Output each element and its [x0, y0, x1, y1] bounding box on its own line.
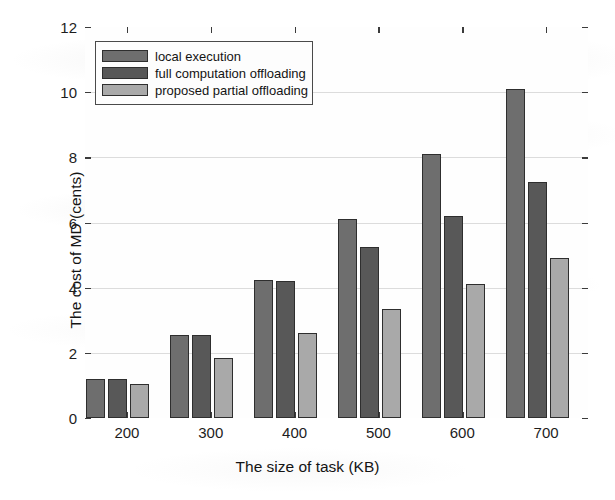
bar	[276, 281, 295, 418]
x-tick-mark-top	[211, 27, 212, 33]
legend-item: full computation offloading	[102, 65, 305, 81]
x-tick-mark-top	[546, 27, 547, 33]
bar	[170, 335, 189, 418]
x-tick-mark-top	[295, 27, 296, 33]
legend-swatch	[102, 84, 148, 96]
bar-chart-figure: The cost of MD (cents) The size of task …	[0, 0, 615, 500]
y-tick-label: 12	[37, 19, 77, 36]
y-tick-mark	[85, 92, 91, 93]
bar	[360, 247, 379, 418]
bar	[444, 216, 463, 418]
x-tick-label: 200	[92, 424, 162, 441]
bar	[254, 280, 273, 418]
bar	[528, 182, 547, 418]
y-tick-mark	[85, 27, 91, 28]
y-tick-mark-right	[582, 353, 588, 354]
x-tick-mark-top	[378, 27, 379, 33]
x-tick-mark-top	[127, 27, 128, 33]
y-tick-label: 10	[37, 84, 77, 101]
legend-item: proposed partial offloading	[102, 82, 305, 98]
y-tick-label: 6	[37, 214, 77, 231]
y-tick-mark-right	[582, 92, 588, 93]
bar	[130, 384, 149, 418]
y-tick-mark-right	[582, 27, 588, 28]
y-tick-mark-right	[582, 157, 588, 158]
x-tick-label: 700	[511, 424, 581, 441]
y-tick-mark-right	[582, 223, 588, 224]
bar	[192, 335, 211, 418]
y-tick-mark	[85, 353, 91, 354]
y-tick-mark	[85, 288, 91, 289]
y-tick-mark-right	[582, 418, 588, 419]
x-tick-label: 400	[260, 424, 330, 441]
legend-label: local execution	[155, 49, 241, 64]
legend-label: proposed partial offloading	[155, 83, 308, 98]
legend-swatch	[102, 67, 148, 79]
bar	[214, 358, 233, 418]
legend-label: full computation offloading	[155, 66, 306, 81]
legend-item: local execution	[102, 48, 305, 64]
bar	[422, 154, 441, 418]
y-tick-mark	[85, 157, 91, 158]
y-tick-label: 8	[37, 149, 77, 166]
legend-swatch	[102, 50, 148, 62]
x-axis-title: The size of task (KB)	[0, 458, 615, 476]
x-tick-label: 600	[427, 424, 497, 441]
bar	[298, 333, 317, 418]
bar	[466, 284, 485, 418]
y-tick-label: 4	[37, 279, 77, 296]
y-tick-label: 0	[37, 410, 77, 427]
y-axis-title: The cost of MD (cents)	[67, 172, 85, 329]
bar	[550, 258, 569, 418]
y-tick-label: 2	[37, 344, 77, 361]
y-tick-mark	[85, 418, 91, 419]
x-tick-mark-top	[462, 27, 463, 33]
bar	[382, 309, 401, 418]
bar	[86, 379, 105, 418]
y-tick-mark-right	[582, 288, 588, 289]
bar	[108, 379, 127, 418]
x-tick-label: 300	[176, 424, 246, 441]
x-tick-label: 500	[343, 424, 413, 441]
y-tick-mark	[85, 223, 91, 224]
chart-legend: local executionfull computation offloadi…	[95, 41, 313, 105]
bar	[338, 219, 357, 418]
bar	[506, 89, 525, 418]
